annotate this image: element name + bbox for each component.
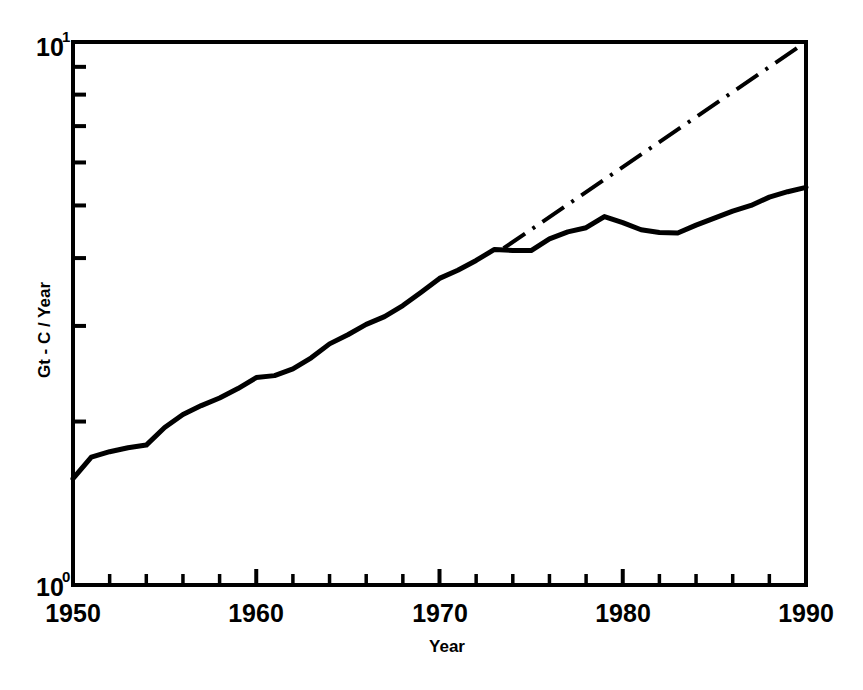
plot-frame: [73, 42, 806, 585]
figure-container: 10 1 10 0 1950 1960 1970 1980 1990 Year …: [0, 0, 863, 690]
y-axis-title: Gt - C / Year: [35, 282, 54, 378]
y-axis-top-label-base: 10: [36, 33, 64, 61]
x-tick-label-1950: 1950: [45, 599, 101, 627]
x-axis-title: Year: [429, 637, 465, 656]
y-axis-top-label-exponent: 1: [62, 28, 70, 45]
x-tick-label-1980: 1980: [595, 599, 651, 627]
x-tick-label-1960: 1960: [228, 599, 284, 627]
x-tick-label-1990: 1990: [778, 599, 834, 627]
x-tick-label-1970: 1970: [412, 599, 468, 627]
y-axis-bottom-label-exponent: 0: [62, 568, 70, 585]
y-axis-bottom-label-base: 10: [36, 573, 64, 601]
chart-canvas: 10 1 10 0 1950 1960 1970 1980 1990 Year …: [0, 0, 863, 690]
